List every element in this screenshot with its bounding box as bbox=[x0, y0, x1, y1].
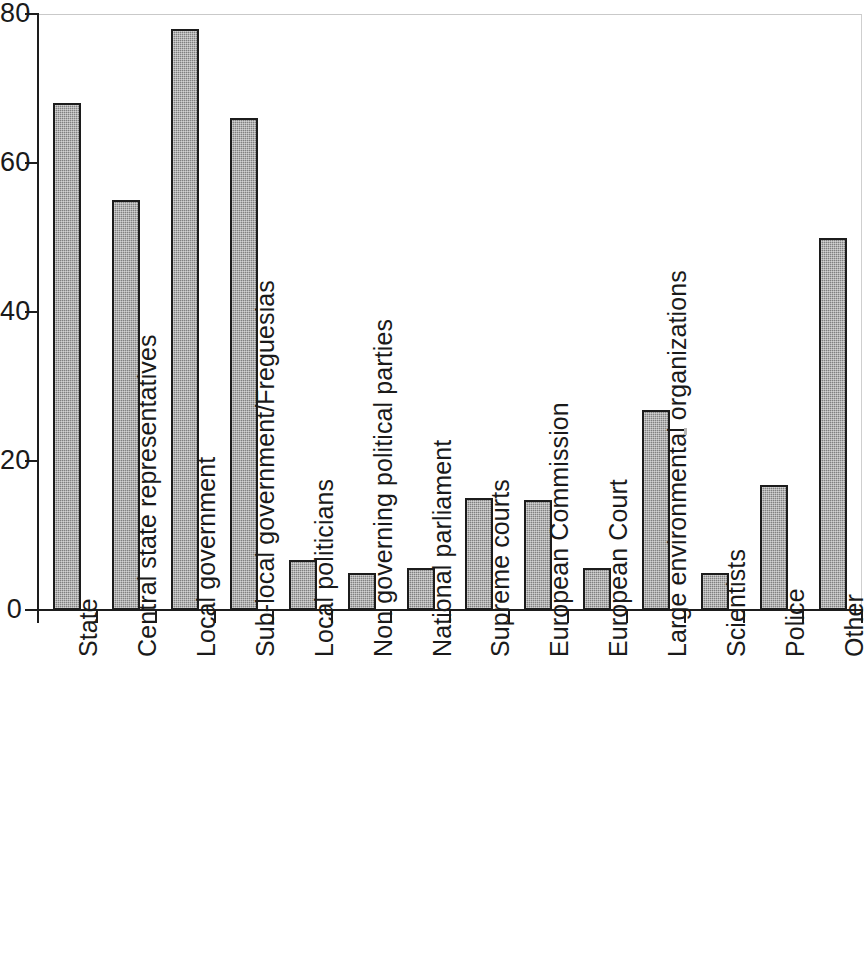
scan-speck bbox=[684, 428, 687, 435]
bar-chart: 020406080 StateCentral state representat… bbox=[0, 0, 866, 963]
x-axis-label: European Court bbox=[606, 479, 631, 657]
y-axis-tick-label-text: 0 bbox=[0, 596, 22, 623]
y-axis-tick-label-text: 20 bbox=[0, 447, 22, 474]
y-axis-tick-label-text: 40 bbox=[0, 298, 22, 325]
x-axis-label: Local politicians bbox=[312, 479, 337, 657]
x-axis-label: Large environmental organizations bbox=[665, 270, 690, 657]
y-axis-tick-label-text: 80 bbox=[0, 0, 22, 27]
x-axis-tick bbox=[37, 610, 39, 623]
x-axis-label: National parliament bbox=[430, 440, 455, 657]
y-axis-tick-label-text: 60 bbox=[0, 149, 22, 176]
x-axis-label: Local government bbox=[194, 457, 219, 657]
y-axis-tick-label: 60 bbox=[0, 149, 22, 177]
x-axis-label: Central state representatives bbox=[135, 334, 160, 657]
x-axis-label: Scientists bbox=[724, 549, 749, 657]
x-axis-label: Other bbox=[842, 594, 866, 657]
x-axis-label: State bbox=[76, 598, 101, 657]
x-axis-label: Supreme courts bbox=[488, 479, 513, 657]
x-axis-label: Sub-local government/Freguesias bbox=[253, 280, 278, 657]
x-axis-label: Police bbox=[783, 588, 808, 657]
x-axis-label: European Commission bbox=[547, 402, 572, 657]
y-axis-tick-label: 20 bbox=[0, 447, 22, 475]
x-axis-label: Non governing political parties bbox=[371, 319, 396, 657]
y-axis-tick-label: 40 bbox=[0, 298, 22, 326]
y-axis-tick-label: 0 bbox=[0, 596, 22, 624]
bar bbox=[53, 103, 81, 610]
y-axis-tick-label: 80 bbox=[0, 0, 22, 28]
bar bbox=[819, 238, 847, 611]
